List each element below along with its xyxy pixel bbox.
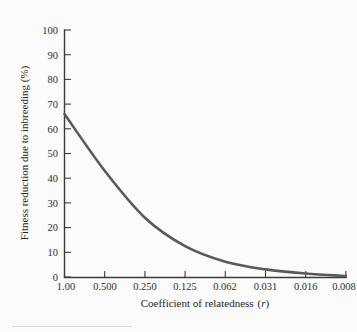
y-tick-label: 20 [48, 222, 59, 233]
x-axis-title: Coefficient of relatedness(r) [141, 297, 270, 310]
y-tick-label: 60 [48, 124, 59, 135]
x-tick-label: 0.125 [173, 281, 197, 292]
y-axis-title: Fitness reduction due to inbreeding (%) [18, 65, 31, 240]
x-tick-label: 0.062 [213, 281, 237, 292]
y-tick-label: 30 [48, 198, 59, 209]
x-tick-label: 1.00 [57, 281, 75, 292]
x-axis-title-text: Coefficient of relatedness [141, 297, 254, 309]
inbreeding-fitness-line-chart: 100 90 80 70 60 50 40 30 20 10 0 1.00 0. [0, 0, 357, 332]
x-tick-label: 0.250 [133, 281, 157, 292]
x-tick-label: 0.008 [332, 281, 356, 292]
y-tick-label: 80 [48, 74, 59, 85]
y-tick-label: 70 [48, 99, 59, 110]
figure-container: 100 90 80 70 60 50 40 30 20 10 0 1.00 0. [0, 0, 357, 332]
x-tick-label: 0.031 [254, 281, 278, 292]
y-tick-label: 10 [48, 247, 59, 258]
y-tick-label: 40 [48, 173, 59, 184]
y-tick-label: 50 [48, 148, 59, 159]
x-tick-label: 0.500 [93, 281, 117, 292]
y-tick-label: 100 [42, 25, 58, 36]
y-tick-label: 90 [48, 50, 59, 61]
x-tick-label: 0.016 [294, 281, 318, 292]
caption-divider [12, 326, 132, 327]
